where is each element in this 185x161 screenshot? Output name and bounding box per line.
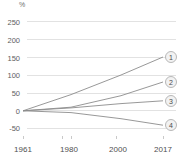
series-badge-2[interactable]: 2: [165, 76, 177, 88]
grid-lines: [27, 22, 176, 129]
series-line-1: [23, 57, 163, 111]
chart-plot-area: [0, 0, 185, 161]
series-lines: [23, 57, 163, 125]
line-chart: % 250 200 150 100 50 0 -50 1961 1980 200…: [0, 0, 185, 161]
series-badge-3[interactable]: 3: [165, 95, 177, 107]
series-badge-4[interactable]: 4: [165, 119, 177, 131]
series-badge-1[interactable]: 1: [165, 51, 177, 63]
series-line-4: [23, 111, 163, 125]
x-axis-ticks: [24, 136, 164, 139]
